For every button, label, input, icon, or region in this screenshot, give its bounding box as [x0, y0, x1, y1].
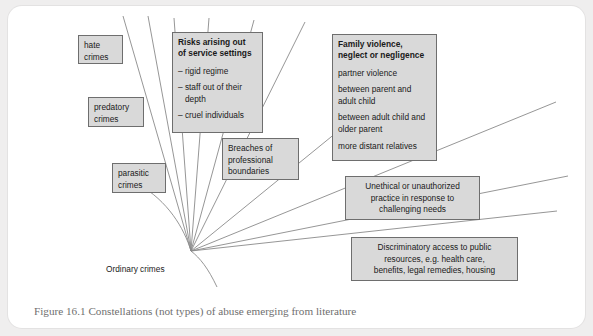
node-discriminatory-access[interactable]: Discriminatory access to public resource… [351, 237, 518, 281]
parasitic-crimes-line-2: crimes [118, 180, 160, 192]
discriminatory-line-2: resources, e.g. health care, [357, 254, 512, 266]
breaches-line-1: Breaches of [228, 143, 293, 155]
family-violence-item-3-line-1: between adult child and [338, 112, 431, 124]
node-breaches-professional[interactable]: Breaches of professional boundaries [222, 138, 299, 180]
figure-card: hate crimes predatory crimes parasitic c… [8, 6, 585, 328]
family-violence-item-2-line-1: between parent and [338, 84, 431, 96]
unethical-line-2: practice in response to [351, 193, 474, 205]
risks-title-line-1: Risks arising out [178, 37, 257, 48]
family-violence-item-2-line-2: adult child [338, 96, 431, 108]
hate-crimes-line-2: crimes [84, 52, 117, 64]
breaches-line-2: professional [228, 155, 293, 167]
arc-left-segment [138, 184, 191, 251]
parasitic-crimes-line-1: parasitic [118, 168, 160, 180]
figure-caption: Figure 16.1 Constellations (not types) o… [34, 304, 564, 318]
node-predatory-crimes[interactable]: predatory crimes [88, 97, 144, 127]
origin-label: Ordinary crimes [106, 264, 165, 275]
predatory-crimes-line-1: predatory [94, 102, 138, 114]
risks-item-1: – rigid regime [178, 66, 257, 78]
family-violence-title: Family violence, neglect or negligence [338, 39, 431, 62]
breaches-line-3: boundaries [228, 166, 293, 178]
node-risks-service-settings[interactable]: Risks arising out of service settings – … [172, 32, 263, 133]
discriminatory-line-3: benefits, legal remedies, housing [357, 265, 512, 277]
family-violence-item-3: between adult child and older parent [338, 112, 431, 135]
node-family-violence[interactable]: Family violence, neglect or negligence p… [332, 34, 437, 161]
diagram-canvas: hate crimes predatory crimes parasitic c… [8, 6, 585, 296]
family-violence-item-4: more distant relatives [338, 141, 431, 153]
family-violence-title-line-1: Family violence, [338, 39, 431, 50]
page-background: hate crimes predatory crimes parasitic c… [0, 0, 593, 336]
node-parasitic-crimes[interactable]: parasitic crimes [112, 163, 166, 193]
risks-item-3: – cruel individuals [178, 110, 257, 122]
arc-right-segment [191, 251, 217, 287]
node-unethical-practice[interactable]: Unethical or unauthorized practice in re… [345, 176, 480, 220]
hate-crimes-line-1: hate [84, 40, 117, 52]
family-violence-item-3-line-2: older parent [338, 124, 431, 136]
unethical-line-1: Unethical or unauthorized [351, 181, 474, 193]
family-violence-item-2: between parent and adult child [338, 84, 431, 107]
risks-title-line-2: of service settings [178, 48, 257, 59]
risks-title: Risks arising out of service settings [178, 37, 257, 60]
node-hate-crimes[interactable]: hate crimes [78, 35, 123, 64]
family-violence-title-line-2: neglect or negligence [338, 50, 431, 61]
risks-item-2-line-1: – staff out of their [178, 82, 257, 94]
discriminatory-line-1: Discriminatory access to public [357, 242, 512, 254]
family-violence-item-1: partner violence [338, 68, 431, 80]
risks-item-2-line-2: depth [178, 94, 257, 106]
unethical-line-3: challenging needs [351, 204, 474, 216]
risks-item-2: – staff out of their depth [178, 82, 257, 105]
predatory-crimes-line-2: crimes [94, 114, 138, 126]
